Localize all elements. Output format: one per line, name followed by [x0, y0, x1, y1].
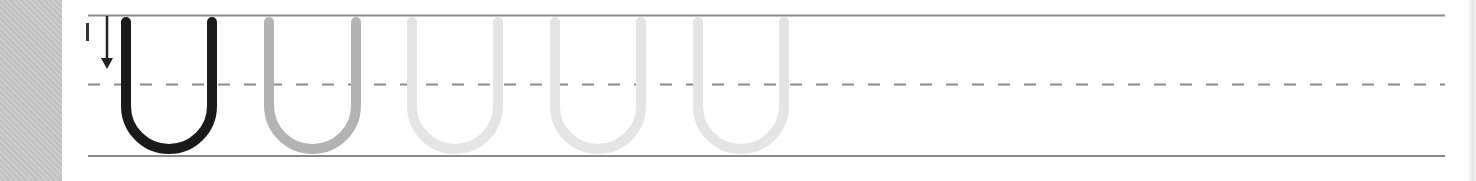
letter-u-trace-dark	[269, 22, 356, 149]
handwriting-practice-sheet	[0, 0, 1476, 181]
stroke-number-mark	[86, 23, 89, 41]
stroke-number-label	[86, 23, 89, 44]
page-edge	[1468, 0, 1476, 181]
stroke-direction-arrow-icon	[101, 16, 113, 69]
